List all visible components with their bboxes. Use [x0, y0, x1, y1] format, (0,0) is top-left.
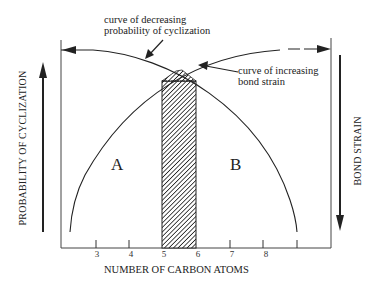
right-arrowhead-icon: [317, 45, 331, 53]
tick-label-3: 3: [95, 249, 100, 259]
bond-strain-axis-arrow: [336, 55, 344, 231]
x-axis-label: NUMBER OF CARBON ATOMS: [104, 264, 249, 275]
probability-axis-label: PROBABILITY OF CYCLIZATION: [17, 71, 28, 226]
increasing-curve-pointer: [198, 61, 238, 72]
optimal-ring-size-region: [162, 70, 196, 248]
diagram-canvas: [0, 0, 370, 290]
probability-axis-arrow: [39, 62, 47, 232]
tick-label-7: 7: [230, 249, 235, 259]
decreasing-curve-label-line1: curve of decreasing: [104, 14, 186, 25]
increasing-curve-label-line2: bond strain: [238, 76, 285, 87]
bond-strain-axis-label: BOND STRAIN: [352, 116, 363, 185]
tick-label-5: 5: [162, 249, 167, 259]
increasing-curve-label-line1: curve of increasing: [238, 65, 318, 76]
region-a-label: A: [111, 155, 123, 175]
region-b-label: B: [230, 155, 241, 175]
tick-label-6: 6: [196, 249, 201, 259]
left-arrowhead-icon: [62, 46, 76, 54]
decreasing-curve-label-line2: probability of cyclization: [104, 25, 210, 36]
tick-label-8: 8: [264, 249, 269, 259]
decreasing-curve-pointer: [145, 40, 163, 59]
tick-label-4: 4: [129, 249, 134, 259]
